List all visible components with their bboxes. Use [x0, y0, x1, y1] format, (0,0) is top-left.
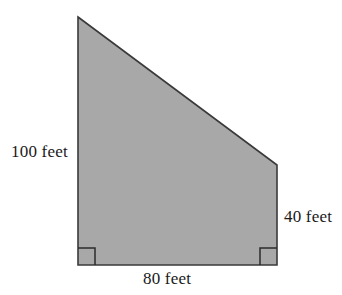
trapezoid-shape: [78, 17, 277, 265]
dimension-label-left: 100 feet: [11, 142, 68, 161]
dimension-label-right: 40 feet: [284, 207, 332, 226]
dimension-label-bottom: 80 feet: [143, 269, 191, 288]
figure-container: 100 feet 40 feet 80 feet: [0, 0, 342, 295]
